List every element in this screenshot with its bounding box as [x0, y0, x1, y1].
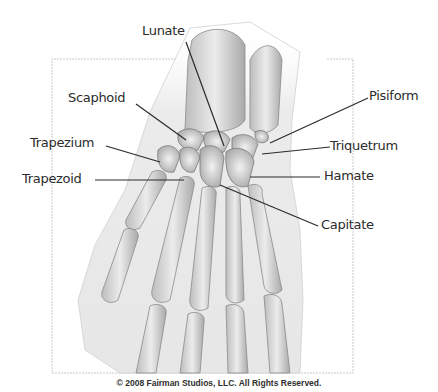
pisiform-bone — [255, 130, 268, 142]
hand-anatomy-diagram: Lunate Scaphoid Trapezium Trapezoid Pisi… — [0, 0, 438, 392]
label-lunate: Lunate — [142, 24, 185, 38]
label-scaphoid: Scaphoid — [68, 91, 125, 105]
radius-bone — [185, 29, 245, 132]
ulna-bone — [250, 46, 282, 133]
copyright-notice: © 2008 Fairman Studios, LLC. All Rights … — [0, 378, 438, 388]
capitate-bone — [200, 146, 224, 187]
label-pisiform: Pisiform — [369, 89, 418, 103]
label-capitate: Capitate — [321, 218, 374, 232]
hand-illustration — [0, 0, 438, 392]
label-trapezium: Trapezium — [30, 136, 94, 150]
label-hamate: Hamate — [324, 169, 374, 183]
label-triquetrum: Triquetrum — [330, 139, 398, 153]
label-trapezoid: Trapezoid — [22, 172, 82, 186]
